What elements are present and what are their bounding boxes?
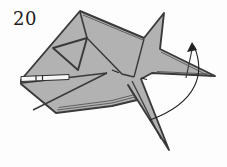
origami-fish-figure — [0, 0, 227, 167]
tail-spike-fold-line — [132, 81, 161, 139]
origami-diagram-canvas: 20 — [0, 0, 227, 167]
